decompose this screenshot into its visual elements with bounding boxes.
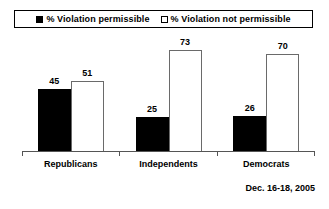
bar-pair: 25 73	[136, 50, 202, 152]
bar-value-label: 51	[82, 69, 92, 78]
open-square-icon	[161, 16, 168, 23]
bar-group-republicans: 45 51	[22, 40, 120, 152]
legend-entry-permissible: % Violation permissible	[36, 15, 149, 24]
bar-value-label: 25	[147, 105, 157, 114]
bar-republicans-permissible: 45	[38, 89, 71, 152]
x-axis-labels: Republicans Independents Democrats	[22, 160, 315, 169]
bar-group-democrats: 26 70	[217, 40, 315, 152]
x-axis-tick	[217, 151, 218, 156]
filled-square-icon	[36, 16, 43, 23]
bar-groups: 45 51 25 73	[22, 40, 315, 152]
x-axis-label-republicans: Republicans	[22, 160, 120, 169]
bar-pair: 26 70	[233, 54, 299, 152]
bar-democrats-permissible: 26	[233, 116, 266, 152]
bar-pair: 45 51	[38, 81, 104, 152]
bar-democrats-not-permissible: 70	[266, 54, 299, 152]
plot-area: 45 51 25 73	[22, 40, 315, 152]
x-axis-label-independents: Independents	[120, 160, 218, 169]
footer-date-note: Dec. 16-18, 2005	[245, 184, 315, 193]
legend-label-not-permissible: % Violation not permissible	[171, 15, 291, 24]
bar-group-independents: 25 73	[120, 40, 218, 152]
x-axis-tick	[22, 151, 23, 156]
legend-label-permissible: % Violation permissible	[46, 15, 149, 24]
bar-value-label: 70	[278, 42, 288, 51]
bar-chart: % Violation permissible % Violation not …	[0, 0, 329, 209]
x-axis-tick	[119, 151, 120, 156]
legend-entry-not-permissible: % Violation not permissible	[161, 15, 291, 24]
bar-value-label: 45	[49, 77, 59, 86]
bar-value-label: 26	[245, 104, 255, 113]
x-axis-label-democrats: Democrats	[217, 160, 315, 169]
x-axis-line	[22, 151, 315, 152]
bar-value-label: 73	[180, 38, 190, 47]
bar-republicans-not-permissible: 51	[71, 81, 104, 152]
bar-independents-not-permissible: 73	[169, 50, 202, 152]
chart-legend: % Violation permissible % Violation not …	[14, 10, 313, 28]
bar-independents-permissible: 25	[136, 117, 169, 152]
x-axis-tick	[314, 151, 315, 156]
